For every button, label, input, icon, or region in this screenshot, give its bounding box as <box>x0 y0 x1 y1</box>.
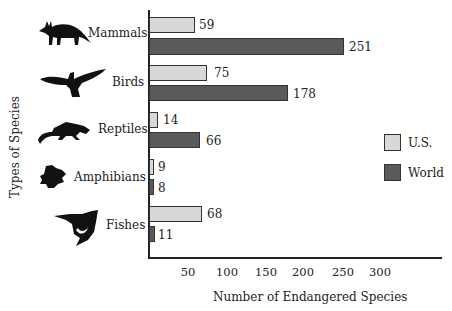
bar-world-amphibians <box>149 179 154 195</box>
aardvark-icon <box>37 19 92 47</box>
legend-swatch-us <box>384 134 401 151</box>
legend-swatch-world <box>384 164 401 181</box>
bar-world-birds <box>149 85 288 101</box>
bar-us-birds <box>149 65 207 81</box>
value-label: 251 <box>349 40 372 54</box>
value-label: 8 <box>158 181 166 195</box>
x-tick: 300 <box>369 265 391 279</box>
category-label: Amphibians <box>74 170 146 184</box>
x-tick: 150 <box>255 265 277 279</box>
value-label: 68 <box>207 207 222 221</box>
legend-label-us: U.S. <box>408 136 432 150</box>
value-label: 11 <box>158 228 173 242</box>
lizard-icon <box>36 118 92 146</box>
value-label: 9 <box>158 160 166 174</box>
category-label: Mammals <box>88 26 147 40</box>
bar-us-mammals <box>149 17 195 33</box>
frog-icon <box>38 164 68 190</box>
bar-world-reptiles <box>149 132 200 148</box>
x-tick: 50 <box>181 265 196 279</box>
x-tick: 250 <box>332 265 354 279</box>
value-label: 178 <box>293 87 316 101</box>
bird-icon <box>38 67 108 99</box>
value-label: 14 <box>163 113 178 127</box>
x-axis-line <box>148 257 442 259</box>
shark-icon <box>52 210 100 248</box>
x-axis-label: Number of Endangered Species <box>213 290 407 304</box>
category-label: Reptiles <box>98 122 148 136</box>
legend-label-world: World <box>408 166 444 180</box>
value-label: 75 <box>214 66 229 80</box>
value-label: 59 <box>199 18 214 32</box>
category-label: Fishes <box>106 218 145 232</box>
x-tick: 100 <box>216 265 238 279</box>
bar-world-mammals <box>149 38 344 55</box>
y-axis-label: Types of Species <box>8 92 22 202</box>
bar-us-fishes <box>149 206 202 222</box>
category-label: Birds <box>112 75 144 89</box>
bar-us-amphibians <box>149 159 154 175</box>
bar-us-reptiles <box>149 112 158 128</box>
value-label: 66 <box>206 134 221 148</box>
bar-world-fishes <box>149 226 155 242</box>
x-tick: 200 <box>292 265 314 279</box>
